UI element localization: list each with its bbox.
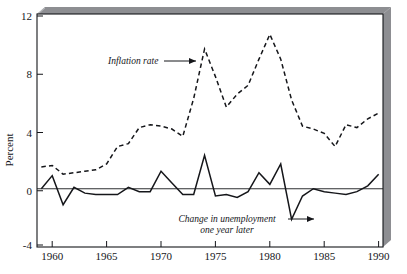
ytick-label-minus4: -4 — [23, 239, 33, 251]
unemployment-change-annotation-label-line2: one year later — [200, 225, 254, 235]
ytick-label-4: 4 — [27, 127, 33, 139]
inflation-rate-annotation-label: Inflation rate — [107, 56, 158, 66]
y-axis-title: Percent — [3, 134, 15, 167]
ytick-label-8: 8 — [27, 68, 33, 80]
xtick-label-1975: 1975 — [204, 250, 227, 262]
chart-figure: 12 8 4 0 -4 Percent 1960 1965 1970 1975 … — [0, 0, 407, 274]
xtick-label-1980: 1980 — [259, 250, 282, 262]
xtick-label-1985: 1985 — [313, 250, 336, 262]
ytick-label-12: 12 — [21, 10, 32, 22]
xtick-label-1990: 1990 — [368, 250, 391, 262]
plot-frame — [37, 14, 383, 247]
unemployment-change-annotation-label-line1: Change in unemployment — [178, 214, 275, 224]
xtick-label-1960: 1960 — [41, 250, 64, 262]
ytick-label-0: 0 — [27, 185, 33, 197]
xtick-label-1965: 1965 — [96, 250, 119, 262]
xtick-label-1970: 1970 — [150, 250, 173, 262]
